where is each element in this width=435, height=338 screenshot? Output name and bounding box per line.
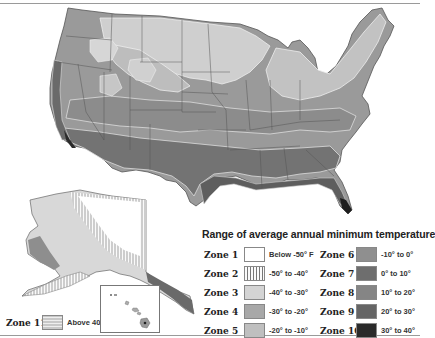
legend-zone-11: Zone 11 Above 40° (6, 315, 103, 330)
legend-zone-10: Zone 10 30° to 40° (320, 321, 415, 338)
legend-column-left: Zone 1 Below -50° F Zone 2 -50° to -40° … (204, 245, 314, 338)
zone-range: Below -50° F (269, 250, 314, 259)
legend-title: Range of average annual minimum temperat… (202, 228, 435, 240)
contiguous-us (50, 8, 394, 214)
legend-zone-5: Zone 5 -20° to -10° (204, 321, 314, 338)
zone-label: Zone 2 (204, 269, 244, 279)
legend-zone-6: Zone 6 -10° to 0° (320, 245, 415, 264)
zone-swatch (244, 266, 265, 281)
zone-swatch (356, 285, 377, 300)
zone-range: 0° to 10° (381, 269, 411, 278)
zone-range: -10° to 0° (381, 250, 413, 259)
legend-zone-3: Zone 3 -40° to -30° (204, 283, 314, 302)
zone-swatch (244, 304, 265, 319)
zone-swatch (244, 285, 265, 300)
zone-swatch (356, 247, 377, 262)
hawaii-inset (100, 285, 160, 333)
zone-label: Zone 5 (204, 326, 244, 336)
hawaii-islands (101, 286, 159, 332)
zone-range: -40° to -30° (269, 288, 308, 297)
legend-column-right: Zone 6 -10° to 0° Zone 7 0° to 10° Zone … (320, 245, 415, 338)
zone-range: 20° to 30° (381, 307, 415, 316)
legend-zone-7: Zone 7 0° to 10° (320, 264, 415, 283)
zone-range: Above 40° (67, 318, 103, 327)
legend-zone-1: Zone 1 Below -50° F (204, 245, 314, 264)
legend-zone-8: Zone 8 10° to 20° (320, 283, 415, 302)
zone-range: 10° to 20° (381, 288, 415, 297)
zone-range: -30° to -20° (269, 307, 308, 316)
zone-range: -20° to -10° (269, 326, 308, 335)
zone-swatch (244, 323, 265, 338)
zone-swatch (244, 247, 265, 262)
zone-range: -50° to -40° (269, 269, 308, 278)
zone-label: Zone 9 (320, 307, 356, 317)
legend-zone-9: Zone 9 20° to 30° (320, 302, 415, 321)
legend-zone-4: Zone 4 -30° to -20° (204, 302, 314, 321)
zone-swatch (356, 323, 377, 338)
zone-swatch (42, 315, 63, 330)
zone-label: Zone 10 (320, 326, 356, 336)
zone-label: Zone 11 (6, 318, 42, 328)
zone-range: 30° to 40° (381, 326, 415, 335)
zone-label: Zone 1 (204, 250, 244, 260)
zone-label: Zone 3 (204, 288, 244, 298)
legend-zone-2: Zone 2 -50° to -40° (204, 264, 314, 283)
zone-swatch (356, 304, 377, 319)
zone-label: Zone 6 (320, 250, 356, 260)
zone-label: Zone 8 (320, 288, 356, 298)
zone-label: Zone 7 (320, 269, 356, 279)
zone-label: Zone 4 (204, 307, 244, 317)
zone-swatch (356, 266, 377, 281)
